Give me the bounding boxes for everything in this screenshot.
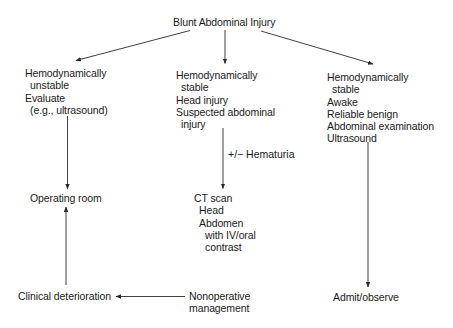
edge-root-to-stable-awake: [261, 31, 373, 64]
edge-root-to-unstable: [76, 31, 190, 61]
node-text: injury: [176, 118, 275, 130]
node-admit-observe: Admit/observe: [333, 291, 399, 303]
node-text: Abdomen: [194, 217, 256, 229]
node-text: Hemodynamically: [176, 69, 275, 81]
node-text: Hemodynamically: [25, 67, 108, 79]
node-text: contrast: [194, 241, 256, 253]
node-text: Awake: [327, 96, 434, 108]
flowchart: Blunt Abdominal Injury Hemodynamically u…: [0, 0, 453, 328]
node-stable-head: Hemodynamically stable Head injury Suspe…: [176, 69, 275, 130]
node-text: Nonoperative: [189, 290, 250, 302]
node-text: stable: [176, 81, 275, 93]
node-text: unstable: [25, 79, 108, 91]
node-root-label: Blunt Abdominal Injury: [173, 16, 275, 28]
node-text: Hemodynamically: [327, 71, 434, 83]
node-text: Head injury: [176, 94, 275, 106]
node-text: Admit/observe: [333, 291, 399, 303]
node-unstable: Hemodynamically unstable Evaluate (e.g.,…: [25, 67, 108, 116]
node-nonoperative: Nonoperative management: [189, 290, 250, 315]
node-text: Operating room: [30, 192, 102, 204]
node-text: Abdominal examination: [327, 120, 434, 132]
node-text: stable: [327, 83, 434, 95]
node-root: Blunt Abdominal Injury: [173, 16, 275, 28]
edges-layer: [0, 0, 453, 328]
node-text: Ultrasound: [327, 132, 434, 144]
node-text: Evaluate: [25, 92, 108, 104]
node-text: management: [189, 302, 250, 314]
edge-label-hematuria: +/− Hematuria: [228, 148, 295, 160]
node-text: with IV/oral: [194, 229, 256, 241]
node-ct-scan: CT scan Head Abdomen with IV/oral contra…: [194, 192, 256, 253]
node-operating-room: Operating room: [30, 192, 102, 204]
node-clinical-deterioration: Clinical deterioration: [18, 290, 111, 302]
node-text: Reliable benign: [327, 108, 434, 120]
node-text: Head: [194, 204, 256, 216]
node-text: (e.g., ultrasound): [25, 104, 108, 116]
node-text: Suspected abdominal: [176, 106, 275, 118]
node-text: Clinical deterioration: [18, 290, 111, 302]
node-stable-awake: Hemodynamically stable Awake Reliable be…: [327, 71, 434, 145]
node-text: CT scan: [194, 192, 256, 204]
